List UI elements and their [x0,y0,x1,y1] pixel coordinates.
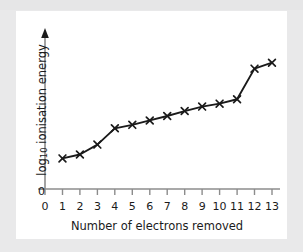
x-axis-tick-label: 1 [54,200,70,213]
x-axis-tick-label: 10 [212,200,228,213]
x-axis-tick-label: 12 [247,200,263,213]
x-axis-tick-label: 0 [37,200,53,213]
x-axis-tick-label: 9 [194,200,210,213]
page-top-strip [0,0,303,10]
y-axis-title-subscript: 10 [39,147,49,158]
x-axis [38,189,280,195]
chart-panel: 0 012345678910111213 log10 ionisation en… [16,11,287,239]
data-series-markers [59,59,275,162]
data-point-marker [94,141,101,148]
figure-page: 0 012345678910111213 log10 ionisation en… [0,0,303,252]
x-axis-title: Number of electrons removed [28,219,286,233]
x-axis-tick-label: 7 [159,200,175,213]
x-axis-tick-label: 2 [72,200,88,213]
y-axis-title: log10 ionisation energy [35,20,49,200]
x-axis-tick-label: 11 [229,200,245,213]
y-axis-title-prefix: log [35,158,49,176]
x-axis-tick-label: 13 [264,200,280,213]
data-series-line [62,63,272,159]
y-axis-title-suffix: ionisation energy [35,44,49,147]
x-axis-tick-label: 5 [124,200,140,213]
x-axis-tick-label: 8 [177,200,193,213]
x-axis-tick-label: 3 [89,200,105,213]
x-axis-ticks [45,189,272,195]
x-axis-tick-label: 4 [107,200,123,213]
x-axis-tick-label: 6 [142,200,158,213]
